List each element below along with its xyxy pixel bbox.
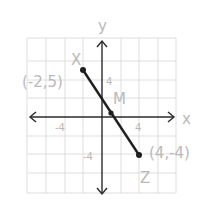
point-z-label: Z [140, 169, 150, 187]
y-axis-label: y [98, 17, 107, 35]
y-tick-pos: 4 [106, 76, 112, 87]
point-m-label: M [113, 90, 126, 108]
point-m-dot [108, 110, 113, 115]
y-tick-neg: -4 [83, 151, 93, 162]
point-z-dot [136, 152, 142, 158]
x-tick-neg: -4 [55, 122, 65, 133]
point-z-coord: (4,-4) [149, 144, 190, 162]
point-x-label: X [71, 51, 81, 69]
x-tick-pos: 4 [135, 122, 141, 133]
x-axis-label: x [182, 110, 191, 128]
coordinate-plane: y x 4 -4 4 -4 X (-2,5) M Z (4,-4) [0, 0, 214, 211]
point-x-coord: (-2,5) [22, 73, 63, 91]
graph-svg: y x 4 -4 4 -4 X (-2,5) M Z (4,-4) [0, 0, 214, 211]
